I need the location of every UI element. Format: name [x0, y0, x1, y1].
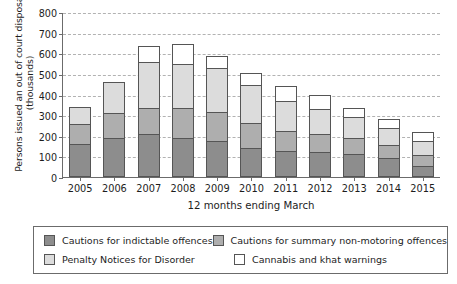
bar-column[interactable]: 2006 — [103, 13, 125, 177]
legend-item-2: Penalty Notices for Disorder — [44, 254, 234, 265]
bar-column[interactable]: 2015 — [412, 13, 434, 177]
bar-group: 2005200620072008200920102011201220132014… — [63, 13, 440, 177]
bar-segment[interactable] — [138, 134, 160, 177]
bar-segment[interactable] — [240, 85, 262, 124]
bar-segment[interactable] — [138, 108, 160, 135]
x-axis-title: 12 months ending March — [62, 200, 440, 211]
legend-item-3: Cannabis and khat warnings — [234, 254, 387, 265]
bar-segment[interactable] — [343, 154, 365, 177]
bar-column[interactable]: 2009 — [206, 13, 228, 177]
bar-segment[interactable] — [103, 82, 125, 114]
x-axis-tick-mark — [217, 177, 218, 181]
bar-segment[interactable] — [138, 46, 160, 64]
bar-segment[interactable] — [206, 112, 228, 142]
x-axis-tick-mark — [423, 177, 424, 181]
bar-segment[interactable] — [206, 68, 228, 113]
bar-column[interactable]: 2010 — [240, 13, 262, 177]
bar-segment[interactable] — [309, 134, 331, 154]
plot-area: 0100200300400500600700800 20052006200720… — [62, 13, 440, 178]
y-axis-tick-mark — [59, 178, 63, 179]
legend-swatch-icon — [44, 235, 55, 246]
bar-segment[interactable] — [69, 124, 91, 145]
bar-column[interactable]: 2014 — [378, 13, 400, 177]
bar-segment[interactable] — [240, 123, 262, 149]
bar-segment[interactable] — [172, 108, 194, 139]
bar-segment[interactable] — [275, 151, 297, 177]
y-axis-title-line1: Persons issued an out of court disposal — [13, 0, 25, 172]
x-axis-tick-label: 2013 — [342, 183, 367, 194]
bar-segment[interactable] — [172, 138, 194, 177]
legend-label: Cautions for indictable offences — [62, 235, 213, 246]
bar-segment[interactable] — [103, 113, 125, 139]
bar-segment[interactable] — [412, 166, 434, 177]
x-axis-tick-mark — [286, 177, 287, 181]
chart-figure: Persons issued an out of court disposal … — [0, 0, 457, 284]
legend-item-0: Cautions for indictable offences — [44, 235, 213, 246]
x-axis-tick-mark — [149, 177, 150, 181]
x-axis-tick-mark — [354, 177, 355, 181]
x-axis-tick-mark — [80, 177, 81, 181]
y-axis-title-line2: (thousands) — [24, 56, 36, 110]
x-axis-tick-label: 2007 — [136, 183, 161, 194]
x-axis-tick-label: 2008 — [170, 183, 195, 194]
bar-segment[interactable] — [240, 148, 262, 177]
x-axis-tick-mark — [114, 177, 115, 181]
bar-segment[interactable] — [69, 107, 91, 126]
bar-column[interactable]: 2005 — [69, 13, 91, 177]
legend-label: Cautions for summary non-motoring offenc… — [231, 235, 447, 246]
bar-segment[interactable] — [69, 144, 91, 177]
bar-column[interactable]: 2007 — [138, 13, 160, 177]
bar-segment[interactable] — [172, 44, 194, 65]
x-axis-tick-label: 2009 — [205, 183, 230, 194]
bar-segment[interactable] — [378, 145, 400, 159]
x-axis-tick-mark — [389, 177, 390, 181]
bar-segment[interactable] — [309, 152, 331, 177]
x-axis-tick-label: 2011 — [273, 183, 298, 194]
bar-segment[interactable] — [206, 141, 228, 177]
x-axis-tick-mark — [183, 177, 184, 181]
chart-legend: Cautions for indictable offences Caution… — [33, 226, 448, 274]
bar-segment[interactable] — [172, 64, 194, 109]
x-axis-tick-label: 2015 — [410, 183, 435, 194]
x-axis-tick-label: 2014 — [376, 183, 401, 194]
legend-label: Cannabis and khat warnings — [252, 254, 387, 265]
legend-item-1: Cautions for summary non-motoring offenc… — [213, 235, 447, 246]
bar-segment[interactable] — [275, 86, 297, 101]
x-axis-tick-mark — [251, 177, 252, 181]
bar-column[interactable]: 2011 — [275, 13, 297, 177]
bar-segment[interactable] — [103, 138, 125, 177]
bar-segment[interactable] — [378, 158, 400, 177]
legend-swatch-icon — [234, 254, 245, 265]
legend-label: Penalty Notices for Disorder — [62, 254, 195, 265]
bar-segment[interactable] — [378, 128, 400, 146]
bar-segment[interactable] — [309, 109, 331, 135]
bar-column[interactable]: 2008 — [172, 13, 194, 177]
bar-segment[interactable] — [275, 101, 297, 132]
bar-segment[interactable] — [343, 138, 365, 156]
x-axis-tick-mark — [320, 177, 321, 181]
x-axis-tick-label: 2012 — [308, 183, 333, 194]
bar-segment[interactable] — [412, 141, 434, 156]
bar-column[interactable]: 2013 — [343, 13, 365, 177]
bar-segment[interactable] — [309, 95, 331, 109]
legend-row: Penalty Notices for Disorder Cannabis an… — [44, 250, 437, 269]
x-axis-tick-label: 2010 — [239, 183, 264, 194]
legend-swatch-icon — [44, 254, 55, 265]
y-axis-title: Persons issued an out of court disposal … — [7, 0, 41, 173]
bar-segment[interactable] — [343, 117, 365, 139]
legend-swatch-icon — [213, 235, 224, 246]
x-axis-tick-label: 2006 — [102, 183, 127, 194]
bar-segment[interactable] — [275, 131, 297, 153]
bar-column[interactable]: 2012 — [309, 13, 331, 177]
bar-segment[interactable] — [240, 73, 262, 86]
bar-segment[interactable] — [138, 62, 160, 108]
legend-row: Cautions for indictable offences Caution… — [44, 231, 437, 250]
x-axis-tick-label: 2005 — [68, 183, 93, 194]
